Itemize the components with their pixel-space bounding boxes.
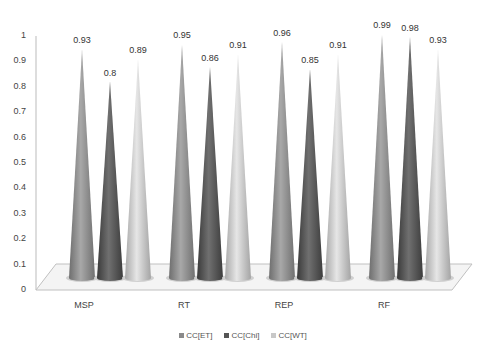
y-tick-label: 1: [6, 30, 26, 40]
cone-bar: [425, 49, 451, 281]
y-tick-label: 0.6: [6, 132, 26, 142]
legend-item-cc-wt: CC[WT]: [271, 331, 306, 340]
y-tick-label: 0.7: [6, 106, 26, 116]
cone-bar: [369, 34, 395, 281]
y-tick-label: 0: [6, 284, 26, 294]
x-category-label: REP: [264, 300, 304, 310]
legend-label: CC[ET]: [186, 331, 212, 340]
data-label: 0.85: [295, 55, 325, 65]
x-category-label: MSP: [64, 300, 104, 310]
cone-bar: [69, 49, 95, 281]
data-label: 0.91: [323, 40, 353, 50]
data-label: 0.93: [67, 35, 97, 45]
data-label: 0.99: [367, 20, 397, 30]
chart-legend: CC[ET] CC[Chi] CC[WT]: [0, 331, 486, 340]
cone-bar: [225, 54, 251, 281]
y-tick-label: 0.4: [6, 182, 26, 192]
data-label: 0.89: [123, 45, 153, 55]
legend-item-cc-et: CC[ET]: [179, 331, 212, 340]
cone-chart: 00.10.20.30.40.50.60.70.80.91 MSPRTREPRF…: [0, 0, 486, 353]
legend-label: CC[WT]: [278, 331, 306, 340]
legend-item-cc-chi: CC[Chi]: [224, 331, 259, 340]
legend-swatch-icon: [224, 333, 229, 338]
cone-bar: [269, 42, 295, 281]
data-label: 0.95: [167, 30, 197, 40]
cone-bar: [125, 59, 151, 281]
cone-bar: [297, 69, 323, 281]
legend-label: CC[Chi]: [231, 331, 259, 340]
y-tick-label: 0.3: [6, 208, 26, 218]
y-tick-label: 0.1: [6, 259, 26, 269]
legend-swatch-icon: [179, 333, 184, 338]
data-label: 0.86: [195, 53, 225, 63]
data-label: 0.98: [395, 23, 425, 33]
cone-bar: [325, 54, 351, 281]
legend-swatch-icon: [271, 333, 276, 338]
cone-bar: [197, 67, 223, 281]
y-tick-label: 0.8: [6, 81, 26, 91]
data-label: 0.8: [95, 68, 125, 78]
y-tick-label: 0.5: [6, 157, 26, 167]
x-category-label: RF: [364, 300, 404, 310]
y-tick-label: 0.9: [6, 55, 26, 65]
y-tick-label: 0.2: [6, 233, 26, 243]
data-label: 0.91: [223, 40, 253, 50]
x-category-label: RT: [164, 300, 204, 310]
cone-bar: [97, 82, 123, 281]
cone-bar: [169, 44, 195, 281]
data-label: 0.93: [423, 35, 453, 45]
cone-bar: [397, 37, 423, 281]
data-label: 0.96: [267, 28, 297, 38]
